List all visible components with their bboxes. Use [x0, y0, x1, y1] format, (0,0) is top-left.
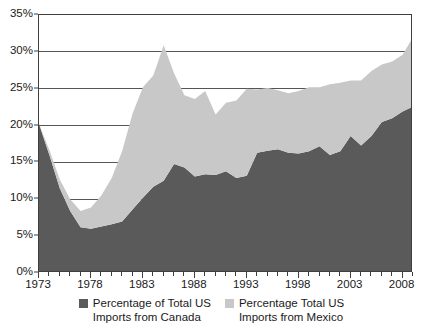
x-tick-mark-minor	[329, 272, 330, 276]
x-tick-mark-minor	[381, 272, 382, 276]
x-tick-mark-minor	[339, 272, 340, 276]
legend-swatch-canada	[79, 299, 88, 308]
plot-svg	[39, 15, 412, 272]
x-tick-label: 1973	[25, 279, 51, 291]
x-tick-mark-minor	[412, 272, 413, 276]
y-tick-label: 10%	[10, 193, 33, 205]
x-tick-mark-minor	[287, 272, 288, 276]
x-tick-mark-minor	[163, 272, 164, 276]
x-tick-mark-minor	[370, 272, 371, 276]
x-tick-label: 2003	[337, 279, 363, 291]
y-tick-label: 30%	[10, 45, 33, 57]
x-tick-mark-minor	[69, 272, 70, 276]
x-tick-mark-minor	[152, 272, 153, 276]
y-tick-label: 20%	[10, 119, 33, 131]
x-tick-mark-minor	[256, 272, 257, 276]
y-tick-label: 25%	[10, 82, 33, 94]
x-tick-mark-minor	[391, 272, 392, 276]
x-tick-mark-minor	[100, 272, 101, 276]
x-tick-mark-minor	[59, 272, 60, 276]
x-tick-mark-minor	[111, 272, 112, 276]
legend-entry-mexico[interactable]: Percentage Total US Imports from Mexico	[225, 296, 344, 324]
x-tick-mark-minor	[215, 272, 216, 276]
y-axis: 0%5%10%15%20%25%30%35%	[0, 0, 38, 272]
x-tick-label: 1978	[77, 279, 103, 291]
x-tick-mark-minor	[132, 272, 133, 276]
x-tick-mark-minor	[80, 272, 81, 276]
legend-label-mexico: Percentage Total US Imports from Mexico	[239, 296, 344, 324]
x-tick-mark-minor	[360, 272, 361, 276]
x-tick-mark-minor	[48, 272, 49, 276]
x-tick-mark-minor	[308, 272, 309, 276]
plot-area	[38, 14, 412, 272]
legend-swatch-mexico	[225, 299, 234, 308]
y-tick-label: 0%	[16, 266, 33, 278]
x-tick-mark-minor	[225, 272, 226, 276]
x-axis: 19731978198319881993199820032008	[38, 272, 412, 294]
y-tick-label: 35%	[10, 8, 33, 20]
x-tick-label: 1993	[233, 279, 259, 291]
x-tick-mark-minor	[267, 272, 268, 276]
x-tick-mark-minor	[204, 272, 205, 276]
x-tick-label: 1983	[129, 279, 155, 291]
x-tick-mark-minor	[235, 272, 236, 276]
x-tick-mark-minor	[319, 272, 320, 276]
x-tick-mark-minor	[183, 272, 184, 276]
stacked-area-chart: 0%5%10%15%20%25%30%35% 19731978198319881…	[0, 0, 423, 332]
area-series-group	[39, 37, 412, 272]
chart-legend: Percentage of Total US Imports from Cana…	[0, 296, 423, 332]
x-tick-label: 1998	[285, 279, 311, 291]
x-tick-label: 1988	[181, 279, 207, 291]
x-tick-label: 2008	[389, 279, 415, 291]
legend-entry-canada[interactable]: Percentage of Total US Imports from Cana…	[79, 296, 211, 324]
legend-label-canada: Percentage of Total US Imports from Cana…	[93, 296, 211, 324]
y-tick-label: 5%	[16, 229, 33, 241]
x-tick-mark-minor	[121, 272, 122, 276]
y-tick-label: 15%	[10, 156, 33, 168]
x-tick-mark-minor	[277, 272, 278, 276]
x-tick-mark-minor	[173, 272, 174, 276]
